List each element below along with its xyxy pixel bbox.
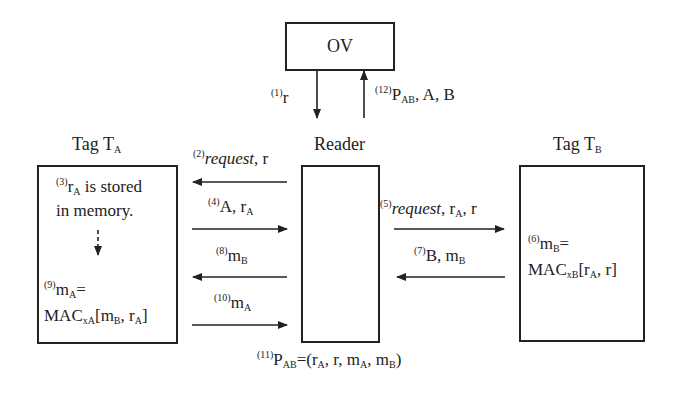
step-4-label: (4)A, rA <box>208 197 253 219</box>
step-11-label: (11)PAB=(rA, r, mA, mB) <box>257 350 401 372</box>
step-6-label: (6)mB= MACxB[rA, r] <box>528 232 617 284</box>
step-12-label: (12)PAB, A, B <box>375 85 455 107</box>
step-1-label: (1)r <box>271 88 288 110</box>
step-9-label: (9)mA= MACxA[mB, rA] <box>44 278 148 330</box>
step-5-label: (5)request, rA, r <box>380 199 477 221</box>
step-2-label: (2)request, r <box>193 149 268 171</box>
step-8-label: (8)mB <box>216 246 248 268</box>
step-3-label: (3)rA is stored in memory. <box>56 176 142 222</box>
step-10-label: (10)mA <box>214 293 251 315</box>
step-7-label: (7)B, mB <box>414 246 465 268</box>
